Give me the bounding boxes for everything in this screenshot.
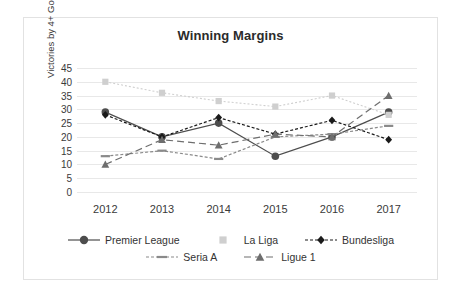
data-point-marker [384, 125, 393, 127]
y-tick-label: 45 [61, 63, 72, 74]
legend-label: Seria A [183, 251, 217, 263]
legend-item-la-liga[interactable]: La Liga [206, 234, 278, 246]
legend-swatch-circle-icon [67, 234, 101, 246]
x-tick-label: 2017 [376, 203, 400, 215]
data-point-marker [80, 236, 88, 244]
legend-label: La Liga [244, 234, 278, 246]
gridline [77, 192, 417, 193]
series-line [105, 112, 388, 156]
x-tick-label: 2014 [206, 203, 230, 215]
data-point-marker [102, 79, 108, 85]
series-line [105, 96, 388, 165]
data-point-marker [157, 256, 167, 258]
data-point-marker [385, 92, 393, 99]
data-point-marker [385, 136, 392, 144]
legend-row: Seria ALigue 1 [24, 251, 437, 263]
legend-item-ligue-1[interactable]: Ligue 1 [243, 251, 315, 263]
data-point-marker [159, 90, 165, 96]
data-point-marker [101, 155, 110, 157]
y-tick-label: 15 [61, 145, 72, 156]
data-point-marker [214, 158, 223, 160]
legend-swatch-triangle-icon [243, 251, 277, 263]
legend-label: Ligue 1 [281, 251, 315, 263]
y-tick-label: 40 [61, 76, 72, 87]
series-line [105, 82, 388, 115]
y-tick-label: 0 [66, 187, 72, 198]
chart-legend: Premier LeagueLa LigaBundesliga Seria AL… [24, 234, 437, 268]
data-point-marker [272, 103, 278, 109]
data-point-marker [386, 112, 392, 118]
legend-row: Premier LeagueLa LigaBundesliga [24, 234, 437, 246]
legend-label: Premier League [105, 234, 180, 246]
chart-title: Winning Margins [24, 28, 437, 43]
x-tick-label: 2013 [150, 203, 174, 215]
data-point-marker [329, 92, 335, 98]
y-tick-label: 35 [61, 90, 72, 101]
legend-swatch-square-icon [206, 234, 240, 246]
data-point-marker [219, 236, 226, 243]
legend-swatch-diamond-icon [304, 234, 338, 246]
legend-swatch-dash-icon [145, 251, 179, 263]
data-point-marker [317, 236, 325, 245]
data-point-marker [329, 116, 336, 124]
data-point-marker [157, 150, 166, 152]
x-tick-label: 2015 [263, 203, 287, 215]
y-tick-label: 30 [61, 104, 72, 115]
y-axis-title: Victories by 4+ Goals [45, 0, 56, 78]
series-bundesliga [102, 111, 392, 144]
x-tick-label: 2016 [320, 203, 344, 215]
legend-item-premier-league[interactable]: Premier League [67, 234, 180, 246]
legend-item-seria-a[interactable]: Seria A [145, 251, 217, 263]
series-line [105, 115, 388, 140]
legend-label: Bundesliga [342, 234, 394, 246]
series-plot [77, 68, 417, 192]
y-tick-label: 20 [61, 131, 72, 142]
y-tick-label: 5 [66, 173, 72, 184]
legend-item-bundesliga[interactable]: Bundesliga [304, 234, 394, 246]
y-tick-label: 25 [61, 118, 72, 129]
x-tick-label: 2012 [93, 203, 117, 215]
chart-container: Winning Margins 454035302520151050 20122… [23, 17, 438, 280]
series-la-liga [102, 79, 392, 118]
data-point-marker [272, 152, 280, 160]
y-tick-label: 10 [61, 159, 72, 170]
plot-area: 454035302520151050 201220132014201520162… [77, 68, 417, 192]
data-point-marker [101, 161, 109, 168]
data-point-marker [216, 98, 222, 104]
